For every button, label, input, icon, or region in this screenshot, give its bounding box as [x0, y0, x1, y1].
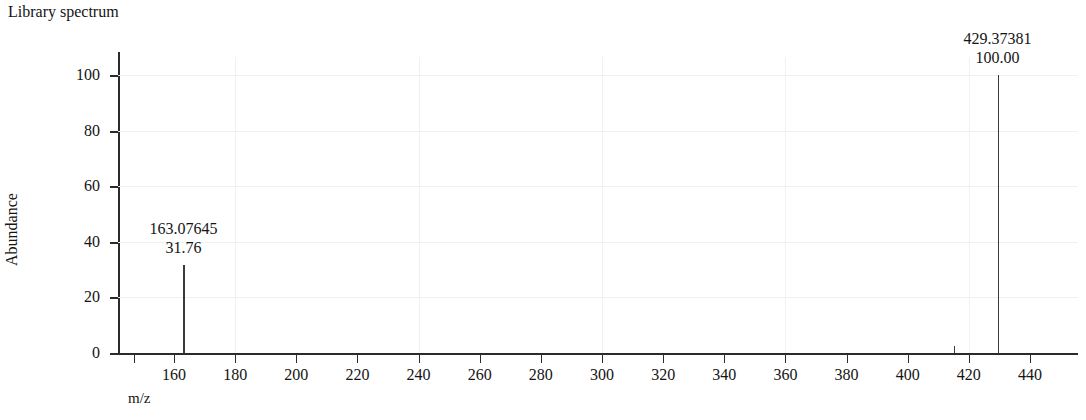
peak-abundance-value: 31.76: [103, 238, 263, 257]
x-axis-tick-mark: [235, 355, 236, 363]
y-axis-tick-label: 40: [54, 234, 100, 250]
x-axis-tick-mark: [663, 355, 664, 363]
x-axis-tick-label: 440: [1000, 366, 1060, 384]
x-axis-tick-label: 300: [572, 366, 632, 384]
y-axis-tick-label: 20: [54, 289, 100, 305]
peak-label: 429.37381100.00: [918, 29, 1078, 67]
x-axis-tick-mark: [541, 355, 542, 363]
y-axis-tick-label: 100: [54, 67, 100, 83]
x-axis-tick-label: 160: [144, 366, 204, 384]
x-axis-title: m/z: [128, 389, 151, 407]
y-axis-tick-mark: [110, 353, 118, 355]
y-axis-tick-label: 60: [54, 178, 100, 194]
x-axis-tick-mark: [724, 355, 725, 363]
x-axis-tick-label: 220: [327, 366, 387, 384]
y-axis-tick-label: 0: [54, 345, 100, 361]
peak-mz-value: 163.07645: [103, 219, 263, 238]
x-axis-tick-label: 340: [694, 366, 754, 384]
x-axis-tick-label: 200: [266, 366, 326, 384]
peak-mz-value: 429.37381: [918, 29, 1078, 48]
x-axis-tick-mark: [908, 355, 909, 363]
x-axis-tick-mark: [419, 355, 420, 363]
x-axis-tick-label: 260: [450, 366, 510, 384]
peak-label: 163.0764531.76: [103, 219, 263, 257]
spectrum-peak: [998, 75, 1000, 353]
x-axis-tick-mark: [847, 355, 848, 363]
x-axis-tick-mark: [969, 355, 970, 363]
page-title: Library spectrum: [8, 2, 119, 22]
x-axis-tick-label: 280: [511, 366, 571, 384]
spectrum-peak: [183, 265, 185, 353]
x-axis-tick-mark: [1030, 355, 1031, 363]
x-axis-line: [118, 353, 1078, 355]
x-axis-tick-label: 420: [939, 366, 999, 384]
spectrum-peak: [954, 346, 956, 353]
x-axis-tick-mark: [296, 355, 297, 363]
x-axis-tick-mark: [785, 355, 786, 363]
x-axis-tick-label: 400: [878, 366, 938, 384]
peak-abundance-value: 100.00: [918, 48, 1078, 67]
x-axis-tick-mark: [480, 355, 481, 363]
y-axis-tick-mark: [110, 297, 118, 299]
y-axis-tick-mark: [110, 186, 118, 188]
x-axis-tick-mark: [134, 355, 135, 363]
y-axis-tick-label: 80: [54, 123, 100, 139]
x-axis-tick-mark: [357, 355, 358, 363]
y-axis-tick-mark: [110, 131, 118, 133]
library-spectrum-figure: Library spectrum Abundance m/z 020406080…: [0, 0, 1086, 420]
y-axis-title: Abundance: [2, 66, 26, 266]
x-axis-tick-label: 180: [205, 366, 265, 384]
x-axis-tick-label: 380: [817, 366, 877, 384]
x-axis-tick-label: 360: [755, 366, 815, 384]
x-axis-tick-mark: [174, 355, 175, 363]
spectrum-peaks: [118, 57, 1078, 353]
y-axis-tick-mark: [110, 75, 118, 77]
x-axis-tick-label: 320: [633, 366, 693, 384]
x-axis-tick-label: 240: [389, 366, 449, 384]
x-axis-tick-mark: [602, 355, 603, 363]
plot-area: [118, 57, 1078, 353]
